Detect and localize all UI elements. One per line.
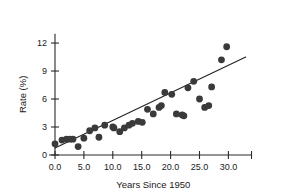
x-tick-label: 20.0 <box>162 162 180 172</box>
x-axis-title: Years Since 1950 <box>116 179 190 190</box>
data-point <box>218 56 225 63</box>
axes-group <box>49 34 252 159</box>
x-tick-label: 10.0 <box>104 162 122 172</box>
y-axis-title: Rate (%) <box>17 76 28 113</box>
y-tick-label: 0 <box>42 150 47 160</box>
x-tick-label: 25.0 <box>191 162 209 172</box>
plot-canvas: 0369120.05.010.015.020.025.030.0Years Si… <box>0 0 291 196</box>
data-point <box>185 84 192 91</box>
y-tick-label: 3 <box>42 122 47 132</box>
data-point <box>101 122 108 129</box>
y-tick-label: 9 <box>42 66 47 76</box>
data-point <box>139 119 146 126</box>
data-point <box>129 120 136 127</box>
trend-line-group <box>55 57 246 148</box>
data-points-group <box>52 43 230 150</box>
scatter-plot-figure: 0369120.05.010.015.020.025.030.0Years Si… <box>0 0 291 196</box>
data-point <box>196 96 203 103</box>
y-tick-label: 12 <box>37 38 47 48</box>
data-point <box>52 140 59 147</box>
data-point <box>70 136 77 143</box>
data-point <box>161 89 168 96</box>
y-tick-label: 6 <box>42 94 47 104</box>
data-point <box>75 143 82 150</box>
data-point <box>173 111 180 118</box>
data-point <box>190 78 197 85</box>
data-point <box>91 125 98 132</box>
data-point <box>111 125 118 132</box>
data-point <box>168 91 175 98</box>
data-point <box>208 83 215 90</box>
data-point <box>180 112 187 119</box>
data-point <box>81 135 88 142</box>
x-tick-label: 0.0 <box>49 162 62 172</box>
data-point <box>205 102 212 109</box>
data-point <box>144 106 151 113</box>
x-tick-label: 5.0 <box>78 162 91 172</box>
data-point <box>158 102 165 109</box>
data-point <box>150 111 157 118</box>
x-tick-label: 30.0 <box>220 162 238 172</box>
data-point <box>96 134 103 141</box>
trend-line <box>55 57 246 148</box>
data-point <box>223 43 230 50</box>
x-tick-label: 15.0 <box>133 162 151 172</box>
